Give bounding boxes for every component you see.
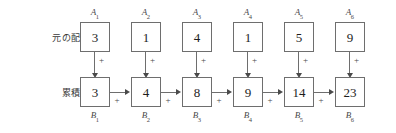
array-cell-a3: 4	[182, 22, 212, 52]
index-label-a4: A4	[233, 7, 263, 21]
index-label-a2: A2	[131, 7, 161, 21]
index-label-b3: B3	[182, 110, 212, 124]
vertical-arrow-line-4	[247, 52, 248, 75]
horizontal-plus-3: +	[215, 95, 223, 105]
vertical-arrow-line-6	[349, 52, 350, 75]
horizontal-arrow-line-4	[263, 92, 278, 93]
horizontal-plus-1: +	[113, 95, 121, 105]
cumsum-cell-b6: 23	[335, 77, 365, 107]
array-cell-a1: 3	[80, 22, 110, 52]
horizontal-arrow-head-3	[227, 89, 232, 95]
vertical-plus-6: +	[354, 55, 359, 65]
index-label-a5: A5	[284, 7, 314, 21]
vertical-arrow-line-1	[94, 52, 95, 75]
vertical-plus-3: +	[201, 55, 206, 65]
array-cell-a4: 1	[233, 22, 263, 52]
index-label-a1: A1	[80, 7, 110, 21]
horizontal-plus-5: +	[317, 95, 325, 105]
array-cell-a6: 9	[335, 22, 365, 52]
horizontal-arrow-line-5	[314, 92, 329, 93]
cumsum-cell-b4: 9	[233, 77, 263, 107]
cumsum-cell-b2: 4	[131, 77, 161, 107]
horizontal-arrow-head-5	[329, 89, 334, 95]
horizontal-arrow-line-3	[212, 92, 227, 93]
horizontal-plus-4: +	[266, 95, 274, 105]
horizontal-arrow-head-2	[176, 89, 181, 95]
index-label-b1: B1	[80, 110, 110, 124]
cumsum-cell-b3: 8	[182, 77, 212, 107]
vertical-plus-1: +	[99, 55, 104, 65]
vertical-arrow-line-2	[145, 52, 146, 75]
vertical-plus-5: +	[303, 55, 308, 65]
array-cell-a5: 5	[284, 22, 314, 52]
index-label-b5: B5	[284, 110, 314, 124]
vertical-arrow-line-5	[298, 52, 299, 75]
cumsum-cell-b1: 3	[80, 77, 110, 107]
index-label-a6: A6	[335, 7, 365, 21]
horizontal-plus-2: +	[164, 95, 172, 105]
vertical-plus-4: +	[252, 55, 257, 65]
vertical-plus-2: +	[150, 55, 155, 65]
vertical-arrow-line-3	[196, 52, 197, 75]
cumulative-sum-diagram: 元の配列 累積和 A1 A2 A3 A4 A5 A6 3 1 4 1 5 9 +…	[0, 0, 396, 133]
horizontal-arrow-line-1	[110, 92, 125, 93]
horizontal-arrow-line-2	[161, 92, 176, 93]
index-label-b2: B2	[131, 110, 161, 124]
index-label-b6: B6	[335, 110, 365, 124]
cumsum-cell-b5: 14	[284, 77, 314, 107]
array-cell-a2: 1	[131, 22, 161, 52]
horizontal-arrow-head-1	[125, 89, 130, 95]
horizontal-arrow-head-4	[278, 89, 283, 95]
index-label-a3: A3	[182, 7, 212, 21]
index-label-b4: B4	[233, 110, 263, 124]
